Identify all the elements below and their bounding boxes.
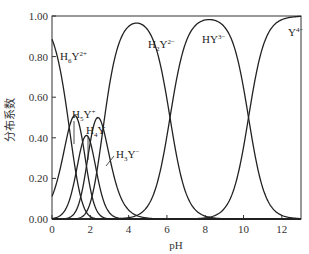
x-tick-label: 0 [49,223,55,235]
y-tick-label: 0.80 [29,51,49,63]
label-h2y2: H2Y2− [148,38,175,53]
x-tick-label: 2 [88,223,94,235]
y-tick-label: 0.60 [29,91,49,103]
y-axis-label: 分布系数 [4,98,17,142]
distribution-chart: 0246810120.000.200.400.600.801.00 H6Y2+H… [0,0,309,254]
x-axis-label: pH [169,239,183,251]
x-tick-label: 10 [238,223,250,235]
y-tick-label: 1.00 [29,10,49,22]
y-tick-label: 0.40 [29,132,49,144]
species-labels: H6Y2+H5Y+H4YH3Y−H2Y2−HY3−Y4− [60,26,303,166]
x-tick-label: 4 [126,223,132,235]
label-h5y: H5Y+ [72,108,95,123]
x-tick-label: 8 [202,223,208,235]
x-tick-label: 12 [276,223,287,235]
x-tick-label: 6 [164,223,170,235]
y-tick-label: 0.20 [29,172,49,184]
y-tick-label: 0.00 [29,213,49,225]
label-h6y2: H6Y2+ [60,50,87,65]
label-hy3: HY3− [202,33,225,45]
label-h3y: H3Y− [116,148,139,163]
